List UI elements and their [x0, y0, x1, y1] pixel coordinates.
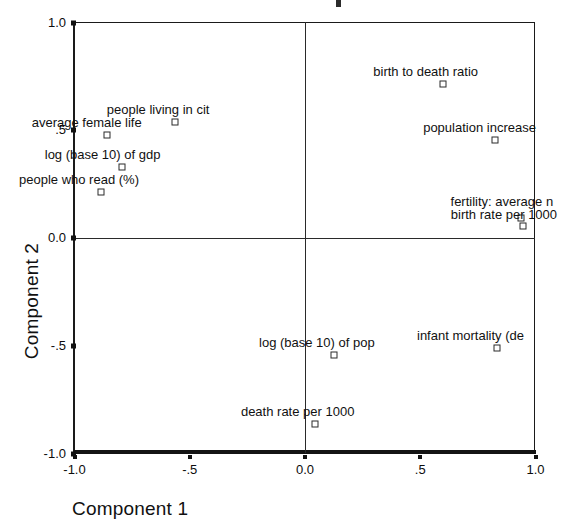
x-tick-label: 1.0: [526, 463, 544, 477]
y-tick-mark: [71, 451, 76, 456]
y-tick-mark: [71, 343, 76, 348]
x-tick-label: -.5: [182, 463, 197, 477]
data-point-label: average female life: [32, 115, 142, 130]
data-point: [103, 131, 110, 138]
x-tick-label: 0.0: [296, 463, 314, 477]
data-point-label: log (base 10) of gdp: [45, 147, 161, 162]
data-point: [311, 420, 318, 427]
data-point: [118, 163, 125, 170]
data-point: [440, 80, 447, 87]
y-tick-label: 1.0: [22, 16, 66, 30]
x-tick-mark: [418, 455, 422, 459]
zero-line-horizontal: [74, 238, 535, 239]
x-tick-mark: [188, 455, 192, 459]
title-remnant-mark: [336, 0, 341, 7]
component-plot: -1.0-.50.0.51.0 1.0.50.0-.5-1.0 birth to…: [0, 0, 570, 532]
x-axis-title: Component 1: [72, 498, 188, 520]
x-tick-mark: [534, 455, 538, 459]
data-point: [98, 188, 105, 195]
data-point-label: birth to death ratio: [373, 64, 478, 79]
y-tick-mark: [71, 236, 76, 241]
data-point-label: log (base 10) of pop: [259, 335, 375, 350]
data-point: [492, 136, 499, 143]
data-point-label: population increase: [423, 120, 536, 135]
x-tick-mark: [303, 455, 307, 459]
y-tick-label: -1.0: [22, 447, 66, 461]
data-point: [494, 345, 501, 352]
data-point-label: infant mortality (de: [417, 328, 524, 343]
x-tick-label: -1.0: [63, 463, 85, 477]
y-axis-title: Component 2: [21, 206, 43, 396]
data-point: [331, 352, 338, 359]
data-point-label: people who read (%): [19, 172, 139, 187]
data-point-label: death rate per 1000: [241, 404, 354, 419]
y-tick-mark: [71, 20, 76, 25]
data-point: [171, 119, 178, 126]
x-tick-label: .5: [415, 463, 426, 477]
data-point-label: birth rate per 1000: [451, 207, 557, 222]
data-point: [519, 222, 526, 229]
